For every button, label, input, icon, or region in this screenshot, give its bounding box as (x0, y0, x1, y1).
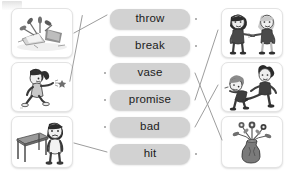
link-vase-to-flower-vase (195, 73, 222, 140)
word-promise-button[interactable]: promise (110, 90, 190, 110)
link-bad-to-boy-hitting (195, 85, 218, 127)
word-vase-button[interactable]: vase (110, 63, 190, 83)
link-promise-to-two-children (195, 30, 218, 100)
word-throw-label: throw (135, 13, 164, 25)
word-throw-button[interactable]: throw (110, 9, 190, 29)
left-picture-card-2[interactable] (11, 62, 73, 112)
connector-dot-right-throw[interactable] (195, 18, 197, 20)
word-promise-label: promise (129, 94, 171, 106)
connector-dot-right-hit[interactable] (195, 153, 197, 155)
word-vase-label: vase (137, 67, 162, 79)
connector-dot-right-break[interactable] (195, 45, 197, 47)
connector-dot-left-bad[interactable] (104, 126, 106, 128)
two-children-promise-icon (222, 9, 282, 57)
right-picture-card-3[interactable] (221, 116, 283, 168)
word-bad-button[interactable]: bad (110, 117, 190, 137)
word-break-button[interactable]: break (110, 36, 190, 56)
word-break-label: break (135, 40, 165, 52)
connector-dot-left-vase[interactable] (104, 72, 106, 74)
right-picture-card-1[interactable] (221, 8, 283, 58)
word-hit-button[interactable]: hit (110, 144, 190, 164)
sad-boy-table-icon (12, 117, 72, 167)
broken-vase-icon (12, 9, 72, 57)
connector-dot-left-promise[interactable] (104, 99, 106, 101)
right-picture-card-2[interactable] (221, 62, 283, 112)
word-bad-label: bad (140, 121, 160, 133)
link-girl-throwing-to-throw (74, 15, 107, 33)
left-picture-card-1[interactable] (11, 8, 73, 58)
left-picture-card-3[interactable] (11, 116, 73, 168)
girl-throwing-icon (12, 63, 72, 111)
link-sad-boy-to-hit (74, 143, 107, 152)
flower-vase-icon (222, 117, 282, 167)
worksheet-canvas: throw break vase promise bad hit (0, 0, 292, 176)
word-hit-label: hit (144, 148, 157, 160)
boy-hitting-boy-icon (222, 63, 282, 111)
